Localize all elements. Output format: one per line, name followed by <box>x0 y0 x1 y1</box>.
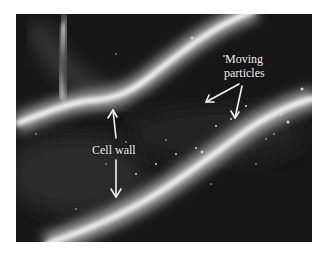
micrograph-image: Cell wall Moving particles <box>16 14 312 242</box>
moving-particles-label-line2: particles <box>224 67 265 79</box>
cell-wall-label: Cell wall <box>92 144 136 156</box>
micrograph-drawing <box>16 14 312 242</box>
moving-particles-label-line1: Moving <box>225 53 263 65</box>
